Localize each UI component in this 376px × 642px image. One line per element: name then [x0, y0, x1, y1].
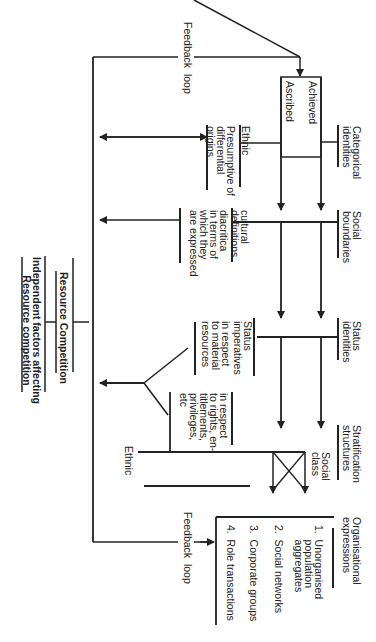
cultural-definitions-title: cultural definitions — [230, 210, 250, 257]
ethnic-description: Presumptive of differential origins — [206, 126, 236, 196]
independent-factors-label: Independent factors affecting Resource c… — [22, 257, 42, 404]
rights-description: in respect to rights, en- titlements, pr… — [179, 393, 229, 451]
achieved-label: Achieved — [308, 81, 318, 124]
status-imperatives-desc: in respect to material resources — [201, 321, 231, 370]
ascribed-label: Ascribed — [285, 81, 295, 122]
feedback-top-line — [194, 0, 300, 57]
status-identities-label: Status identities — [342, 321, 362, 362]
ethnic-top-label: Ethnic — [241, 126, 251, 155]
org-item-4: 4. Role transactions — [226, 525, 236, 621]
stratification-structures-label: Stratification structures — [342, 425, 362, 483]
cultural-definitions-desc: diacritica in terms of which they are ex… — [189, 210, 229, 277]
ethnic-bottom-label: Ethnic — [124, 446, 134, 475]
social-class-label: Social class — [311, 452, 331, 481]
org-item-1: 1. Unorganised population aggregates — [294, 525, 324, 599]
org-item-3: 3. Corporate groups — [249, 525, 259, 621]
organisational-expressions-title: Organisational expressions — [342, 517, 362, 585]
resource-competition-label: Resource Competition — [59, 272, 69, 384]
categorical-identities-label: Categorical identities — [342, 126, 362, 179]
feedback-loop-top-label: Feedback loop — [183, 22, 193, 94]
social-boundaries-label: Social boundaries — [342, 211, 362, 263]
status-imperatives-title: Status imperatives — [233, 321, 253, 375]
feedback-loop-bottom-label: Feedback loop — [183, 512, 193, 584]
org-item-2: 2. Social networks — [274, 525, 284, 613]
